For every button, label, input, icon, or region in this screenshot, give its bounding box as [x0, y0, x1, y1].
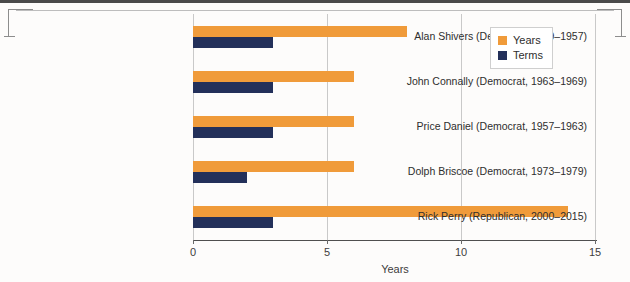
gridline — [595, 14, 596, 240]
chart-page: Alan Shivers (Democrat, 1949–1957)John C… — [0, 0, 630, 282]
chart-row: Dolph Briscoe (Democrat, 1973–1979) — [193, 150, 595, 195]
bar-terms — [193, 127, 273, 138]
legend-swatch-terms-icon — [498, 51, 507, 60]
legend-label-years: Years — [513, 35, 541, 46]
chart-row: Rick Perry (Republican, 2000–2015) — [193, 195, 595, 240]
x-tick-mark — [193, 240, 194, 244]
legend-label-terms: Terms — [513, 50, 543, 61]
crop-bracket-right-icon — [597, 9, 622, 36]
bar-terms — [193, 217, 273, 228]
legend-swatch-years-icon — [498, 36, 507, 45]
bar-terms — [193, 37, 273, 48]
bar-terms — [193, 172, 247, 183]
bar-years — [193, 26, 407, 37]
category-label: Price Daniel (Democrat, 1957–1963) — [417, 120, 587, 132]
category-label: Rick Perry (Republican, 2000–2015) — [418, 210, 587, 222]
x-tick-label: 10 — [455, 246, 467, 258]
category-label: Dolph Briscoe (Democrat, 1973–1979) — [408, 165, 587, 177]
legend-item-years: Years — [498, 33, 543, 48]
crop-bracket-left-icon — [8, 9, 33, 36]
chart-row: Price Daniel (Democrat, 1957–1963) — [193, 104, 595, 149]
page-frame-line — [16, 10, 614, 11]
bar-years — [193, 161, 354, 172]
category-label: John Connally (Democrat, 1963–1969) — [407, 75, 587, 87]
x-axis-line — [193, 240, 597, 241]
x-axis-title: Years — [193, 263, 597, 275]
x-tick-mark — [461, 240, 462, 244]
chart-legend: Years Terms — [490, 27, 553, 69]
x-tick-label: 0 — [190, 246, 196, 258]
bar-years — [193, 116, 354, 127]
bar-years — [193, 71, 354, 82]
page-top-rule — [0, 0, 630, 3]
x-tick-mark — [595, 240, 596, 244]
x-tick-mark — [327, 240, 328, 244]
bar-terms — [193, 82, 273, 93]
x-tick-label: 5 — [324, 246, 330, 258]
legend-item-terms: Terms — [498, 48, 543, 63]
x-tick-label: 15 — [589, 246, 601, 258]
